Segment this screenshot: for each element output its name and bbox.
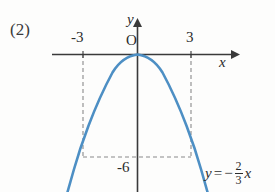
origin-label: O: [126, 33, 137, 48]
fraction-denominator: 3: [235, 173, 243, 187]
equation-fraction: 2 3: [235, 160, 243, 186]
y-axis-arrowhead: [133, 18, 142, 27]
y-tick-label-neg6: -6: [117, 160, 130, 175]
fraction-numerator: 2: [235, 160, 243, 173]
curve-equation-label: y = − 2 3 x: [205, 160, 251, 186]
equation-minus-sign: −: [224, 166, 232, 181]
x-tick-label-neg3: -3: [71, 30, 84, 45]
equation-lhs: y: [205, 166, 212, 181]
x-axis-arrowhead: [231, 50, 240, 59]
item-number-label: (2): [10, 21, 30, 38]
equation-equals-sign: =: [214, 166, 222, 181]
x-tick-label-pos3: 3: [186, 30, 194, 45]
equation-variable: x: [245, 166, 252, 181]
x-axis-label: x: [219, 55, 226, 70]
y-axis-label: y: [127, 12, 134, 27]
